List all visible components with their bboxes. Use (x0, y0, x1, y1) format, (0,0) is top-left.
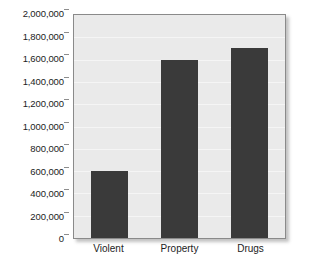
y-axis-tick-mark (64, 167, 69, 168)
y-axis-tick-mark (64, 234, 69, 235)
y-axis: 2,000,000 1,800,000 1,600,000 1,400,000 … (0, 14, 64, 239)
y-axis-tick-mark (64, 32, 69, 33)
y-axis-tick-label: 1,000,000 (0, 122, 64, 132)
y-axis-tick-label: 600,000 (0, 167, 64, 177)
y-axis-tick-label: 0 (0, 234, 64, 244)
bar-property (161, 60, 198, 238)
bar-drugs (231, 48, 268, 238)
y-axis-tick-label: 1,200,000 (0, 99, 64, 109)
bar-chart-figure: 2,000,000 1,800,000 1,600,000 1,400,000 … (0, 0, 315, 272)
x-axis-category-label: Property (144, 243, 215, 254)
y-axis-tick-label: 1,600,000 (0, 54, 64, 64)
y-axis-tick-mark (64, 9, 69, 10)
bar-slot (74, 15, 144, 238)
x-axis-category-label: Violent (73, 243, 144, 254)
y-axis-tick-label: 1,400,000 (0, 77, 64, 87)
x-axis-category-label: Drugs (215, 243, 286, 254)
bars-layer (74, 15, 285, 238)
y-axis-tick-label: 2,000,000 (0, 9, 64, 19)
y-axis-tick-label: 200,000 (0, 212, 64, 222)
y-axis-tick-label: 1,800,000 (0, 32, 64, 42)
y-axis-tick-mark (64, 54, 69, 55)
y-axis-tick-mark (64, 99, 69, 100)
bar-slot (215, 15, 285, 238)
y-axis-tick-mark (64, 189, 69, 190)
y-axis-tick-mark (64, 212, 69, 213)
y-axis-tick-mark (64, 77, 69, 78)
y-axis-tick-mark (64, 144, 69, 145)
plot-area (74, 15, 285, 238)
bar-violent (91, 171, 128, 238)
x-axis: Violent Property Drugs (73, 243, 286, 254)
bar-slot (144, 15, 214, 238)
plot-frame (73, 14, 286, 239)
y-axis-tick-mark (64, 122, 69, 123)
y-axis-tick-label: 400,000 (0, 189, 64, 199)
y-axis-tick-label: 800,000 (0, 144, 64, 154)
